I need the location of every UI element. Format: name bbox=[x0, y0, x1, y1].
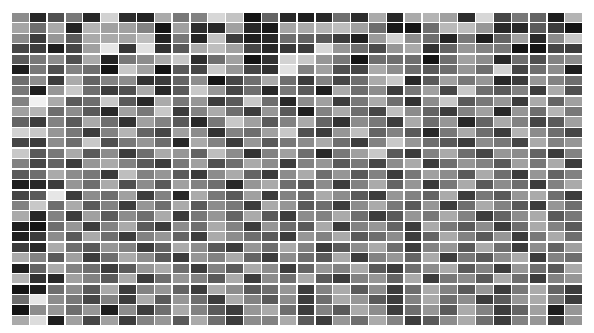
heatmap-cell bbox=[494, 170, 511, 179]
heatmap-cell bbox=[476, 316, 493, 325]
heatmap-cell bbox=[119, 285, 136, 294]
heatmap-cell bbox=[119, 23, 136, 32]
heatmap-cell bbox=[494, 55, 511, 64]
heatmap-cell bbox=[458, 138, 475, 147]
heatmap-cell bbox=[298, 201, 315, 210]
heatmap-cell bbox=[387, 191, 404, 200]
heatmap-cell bbox=[244, 232, 261, 241]
heatmap-cell bbox=[137, 274, 154, 283]
heatmap-cell bbox=[173, 274, 190, 283]
heatmap-cell bbox=[48, 285, 65, 294]
heatmap-cell bbox=[369, 55, 386, 64]
heatmap-cell bbox=[565, 128, 582, 137]
heatmap-cell bbox=[458, 316, 475, 325]
heatmap-cell bbox=[12, 191, 29, 200]
heatmap-cell bbox=[244, 23, 261, 32]
heatmap-cell bbox=[565, 232, 582, 241]
heatmap-cell bbox=[530, 170, 547, 179]
heatmap-cell bbox=[12, 117, 29, 126]
heatmap-cell bbox=[48, 201, 65, 210]
heatmap-cell bbox=[530, 13, 547, 22]
heatmap-cell bbox=[440, 65, 457, 74]
heatmap-cell bbox=[387, 222, 404, 231]
heatmap-cell bbox=[333, 295, 350, 304]
heatmap-cell bbox=[423, 211, 440, 220]
heatmap-cell bbox=[244, 76, 261, 85]
heatmap-cell bbox=[298, 65, 315, 74]
heatmap-cell bbox=[351, 34, 368, 43]
heatmap-cell bbox=[440, 316, 457, 325]
heatmap-cell bbox=[476, 138, 493, 147]
heatmap-cell bbox=[333, 107, 350, 116]
heatmap-cell bbox=[369, 34, 386, 43]
heatmap-cell bbox=[262, 55, 279, 64]
heatmap-cell bbox=[405, 222, 422, 231]
heatmap-cell bbox=[423, 97, 440, 106]
heatmap-cell bbox=[12, 44, 29, 53]
heatmap-cell bbox=[548, 264, 565, 273]
heatmap-cell bbox=[30, 295, 47, 304]
heatmap-cell bbox=[262, 253, 279, 262]
heatmap-cell bbox=[316, 180, 333, 189]
heatmap-cell bbox=[226, 264, 243, 273]
heatmap-cell bbox=[476, 170, 493, 179]
heatmap-cell bbox=[83, 180, 100, 189]
heatmap-cell bbox=[66, 128, 83, 137]
heatmap-cell bbox=[83, 128, 100, 137]
heatmap-cell bbox=[101, 243, 118, 252]
heatmap-cell bbox=[333, 232, 350, 241]
heatmap-cell bbox=[12, 316, 29, 325]
heatmap-cell bbox=[458, 13, 475, 22]
heatmap-cell bbox=[119, 253, 136, 262]
heatmap-cell bbox=[333, 305, 350, 314]
heatmap-cell bbox=[512, 34, 529, 43]
heatmap-cell bbox=[440, 274, 457, 283]
heatmap-cell bbox=[476, 159, 493, 168]
heatmap-cell bbox=[262, 316, 279, 325]
heatmap-cell bbox=[565, 295, 582, 304]
heatmap-cell bbox=[458, 243, 475, 252]
heatmap-cell bbox=[423, 191, 440, 200]
heatmap-cell bbox=[262, 305, 279, 314]
heatmap-cell bbox=[191, 138, 208, 147]
heatmap-cell bbox=[440, 180, 457, 189]
heatmap-cell bbox=[458, 65, 475, 74]
heatmap-cell bbox=[458, 295, 475, 304]
heatmap-cell bbox=[440, 86, 457, 95]
heatmap-cell bbox=[262, 107, 279, 116]
heatmap-cell bbox=[387, 34, 404, 43]
heatmap-cell bbox=[208, 138, 225, 147]
heatmap-cell bbox=[155, 23, 172, 32]
heatmap-cell bbox=[83, 316, 100, 325]
heatmap-cell bbox=[548, 170, 565, 179]
heatmap-cell bbox=[494, 211, 511, 220]
heatmap-cell bbox=[30, 305, 47, 314]
heatmap-cell bbox=[387, 211, 404, 220]
heatmap-cell bbox=[316, 305, 333, 314]
heatmap-cell bbox=[83, 138, 100, 147]
heatmap-cell bbox=[440, 295, 457, 304]
heatmap-cell bbox=[48, 211, 65, 220]
heatmap-cell bbox=[12, 253, 29, 262]
heatmap-cell bbox=[476, 23, 493, 32]
heatmap-cell bbox=[12, 55, 29, 64]
heatmap-cell bbox=[351, 65, 368, 74]
heatmap-cell bbox=[476, 76, 493, 85]
heatmap-cell bbox=[173, 107, 190, 116]
heatmap-cell bbox=[316, 55, 333, 64]
heatmap-cell bbox=[369, 86, 386, 95]
heatmap-cell bbox=[548, 107, 565, 116]
heatmap-cell bbox=[12, 180, 29, 189]
heatmap-cell bbox=[244, 222, 261, 231]
heatmap-cell bbox=[316, 149, 333, 158]
heatmap-cell bbox=[101, 222, 118, 231]
heatmap-cell bbox=[387, 316, 404, 325]
heatmap-cell bbox=[387, 86, 404, 95]
heatmap-cell bbox=[530, 97, 547, 106]
heatmap-cell bbox=[83, 13, 100, 22]
heatmap-cell bbox=[12, 97, 29, 106]
heatmap-cell bbox=[208, 76, 225, 85]
heatmap-cell bbox=[208, 211, 225, 220]
heatmap-cell bbox=[155, 44, 172, 53]
heatmap-cell bbox=[30, 201, 47, 210]
